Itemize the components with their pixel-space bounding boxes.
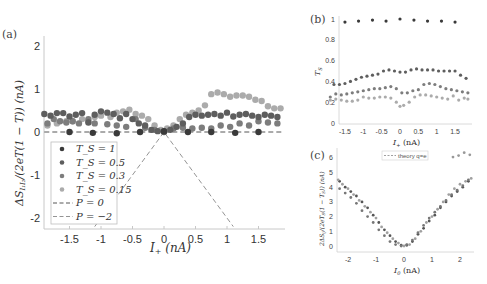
x-label-c: I0 (nA) [393, 266, 420, 276]
data-point [406, 91, 409, 94]
y-tick-label: 0 [331, 120, 335, 127]
y-tick-label: 1 [34, 83, 40, 95]
data-point [433, 214, 436, 217]
data-point [214, 89, 220, 95]
x-tick-label: -0.5 [376, 128, 388, 135]
data-point [383, 228, 386, 231]
legend-c: theory q=e [382, 151, 428, 160]
y-tick-label: 0 [34, 126, 40, 138]
data-point [249, 112, 255, 118]
data-point [453, 21, 456, 24]
data-point [161, 128, 167, 134]
data-point [361, 201, 364, 204]
data-point [439, 205, 442, 208]
data-point [148, 127, 154, 133]
data-point [363, 205, 366, 208]
data-point [236, 112, 242, 118]
data-point [362, 89, 365, 92]
data-point [352, 193, 355, 196]
legend-label: T_S = 0.15 [76, 184, 132, 196]
data-point [415, 67, 418, 70]
data-point [466, 91, 469, 94]
data-point [440, 19, 443, 22]
legend-marker [60, 187, 65, 192]
y-ticks-c: 0123456 [329, 154, 333, 249]
data-point [227, 94, 233, 100]
x-tick-label: 1.5 [450, 128, 460, 135]
y-tick-label: -1 [30, 169, 40, 181]
legend-label: P = −2 [75, 211, 112, 222]
data-point [199, 112, 205, 118]
x-ticks-c: -2-1012 [345, 256, 462, 263]
data-point [337, 178, 340, 181]
data-point [344, 186, 347, 189]
data-point [104, 109, 110, 115]
y-tick-label: 6 [329, 154, 333, 161]
y-tick-label: 3 [329, 198, 333, 205]
data-point [274, 114, 280, 120]
legend-theory-label: theory q=e [398, 153, 427, 159]
data-point [394, 240, 397, 243]
data-point [417, 231, 420, 234]
data-point [117, 115, 123, 121]
data-points-a [41, 89, 284, 136]
data-point [345, 92, 348, 95]
y-tick-label: 0 [329, 243, 333, 250]
data-point [377, 228, 380, 231]
data-point [457, 99, 460, 102]
data-point [41, 111, 47, 117]
data-point [123, 111, 129, 117]
legend-a: T_S = 1T_S = 0.5T_S = 0.3T_S = 0.15P = 0… [51, 142, 132, 224]
data-point [344, 192, 347, 195]
data-point [98, 108, 104, 114]
x-tick-label: -1 [96, 233, 106, 245]
data-point [422, 83, 425, 86]
data-point [389, 240, 392, 243]
y-tick-label: 0.8 [325, 36, 335, 43]
data-point [202, 102, 208, 108]
y-tick-label: 2 [329, 213, 333, 220]
data-point [373, 87, 376, 90]
data-point [441, 96, 444, 99]
data-point [355, 195, 358, 198]
data-point [192, 112, 198, 118]
data-point [467, 178, 470, 181]
data-point [129, 116, 135, 122]
y-tick-label: -2 [30, 212, 40, 224]
y-tick-label: 0.6 [325, 57, 335, 64]
data-point [445, 199, 448, 202]
data-point [208, 129, 214, 135]
legend-marker [60, 174, 65, 179]
data-point [376, 73, 379, 76]
data-point [354, 78, 357, 81]
data-point [459, 74, 462, 77]
data-point [232, 130, 238, 136]
data-point [431, 68, 434, 71]
data-point [265, 119, 271, 125]
data-point [372, 221, 375, 224]
data-point [389, 85, 392, 88]
y-tick-label: 1 [329, 228, 333, 235]
data-point [384, 19, 387, 22]
data-point [439, 85, 442, 88]
data-point [426, 19, 429, 22]
data-point [85, 119, 91, 125]
data-point [371, 18, 374, 21]
data-point [433, 211, 436, 214]
data-point [466, 97, 469, 100]
data-point [378, 95, 381, 98]
y-label-c: 2ΔSij/(2eTS(1 − TS)) (nA) [318, 171, 326, 247]
data-point [442, 69, 445, 72]
data-point [384, 86, 387, 89]
data-point [461, 184, 464, 187]
data-point [221, 91, 227, 97]
data-point [338, 83, 341, 86]
data-point [426, 68, 429, 71]
data-point [382, 69, 385, 72]
data-point [372, 214, 375, 217]
data-point [452, 94, 455, 97]
data-point [428, 82, 431, 85]
data-point [394, 243, 397, 246]
y-ticks-b: 00.20.40.60.81 [325, 16, 335, 127]
data-point [367, 96, 370, 99]
